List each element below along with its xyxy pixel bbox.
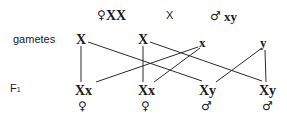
male-symbol-icon: ♂ bbox=[201, 100, 212, 112]
female-symbol-icon: ♀ bbox=[141, 100, 150, 112]
offspring-2-genotype: Xx bbox=[138, 84, 155, 98]
gamete-4: y bbox=[260, 36, 267, 49]
gametes-label: gametes bbox=[13, 34, 55, 45]
offspring-3-genotype: Xy bbox=[199, 84, 216, 98]
cross-symbol: X bbox=[166, 10, 173, 21]
gamete-1: X bbox=[76, 33, 86, 47]
offspring-4-genotype: Xy bbox=[259, 84, 276, 98]
line-x-to-Xx1 bbox=[96, 47, 198, 82]
female-symbol-icon: ♀ bbox=[97, 9, 106, 21]
female-parent-genotype: XX bbox=[106, 9, 126, 23]
line-X1-to-Xy1 bbox=[88, 42, 202, 81]
line-X2-to-Xy2 bbox=[150, 42, 262, 81]
female-symbol-icon: ♀ bbox=[78, 100, 87, 112]
gamete-3: x bbox=[199, 36, 206, 49]
line-x-to-Xx2 bbox=[154, 48, 200, 82]
male-symbol-icon: ♂ bbox=[262, 100, 273, 112]
line-y-to-Xy2 bbox=[265, 50, 266, 82]
male-symbol-icon: ♂ bbox=[210, 10, 221, 22]
gamete-2: X bbox=[138, 33, 148, 47]
f1-label: F1 bbox=[10, 83, 21, 94]
male-parent-genotype: xy bbox=[224, 10, 237, 23]
offspring-1-genotype: Xx bbox=[75, 84, 92, 98]
line-y-to-Xy1 bbox=[216, 48, 262, 82]
